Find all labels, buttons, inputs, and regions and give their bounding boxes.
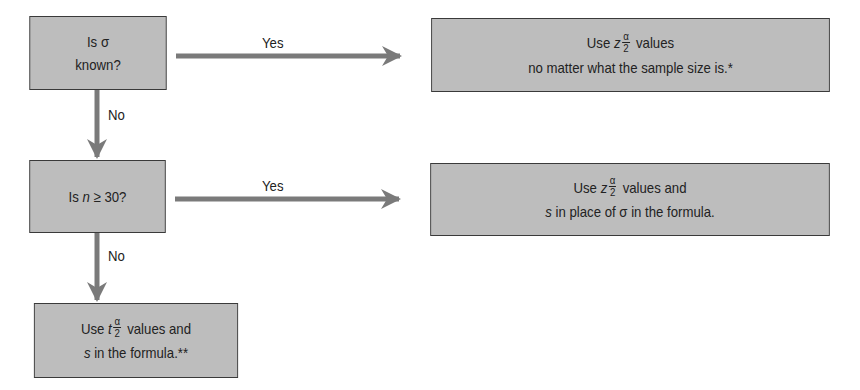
edge-label-yes-2: Yes (262, 177, 284, 194)
result-use-z-with-s: Use zα2 values and s in place of σ in th… (430, 163, 830, 236)
decision-n-at-least-30: Is n ≥ 30? (29, 160, 165, 233)
text: Is (87, 33, 101, 50)
text: no matter what the sample size is.* (528, 56, 733, 79)
edge-label-yes-1: Yes (262, 34, 284, 51)
text: known? (75, 53, 120, 76)
frac-den: 2 (114, 328, 119, 339)
edge-label-no-1: No (108, 106, 125, 123)
text: in the formula.** (91, 344, 189, 361)
text: values and (124, 320, 192, 337)
text: Use (81, 320, 108, 337)
text: Use (587, 34, 614, 51)
z-variable: z (614, 34, 621, 51)
result-use-z-any-size: Use zα2 values no matter what the sample… (431, 18, 830, 92)
n-variable: n (82, 188, 89, 205)
frac-num: α (622, 31, 629, 43)
alpha-over-2: α2 (609, 175, 616, 198)
alpha-over-2: α2 (622, 31, 629, 54)
sigma-symbol: σ (619, 203, 627, 220)
alpha-over-2: α2 (114, 316, 121, 339)
text: values (632, 34, 674, 51)
t-variable: t (108, 320, 112, 337)
sigma-symbol: σ (101, 33, 109, 50)
text: Is (69, 188, 83, 205)
frac-den: 2 (610, 187, 615, 198)
z-variable: z (601, 179, 608, 196)
decision-sigma-known: Is σ known? (29, 16, 166, 90)
text: in place of (552, 203, 620, 220)
text: Use (573, 179, 600, 196)
text: ≥ 30? (90, 188, 127, 205)
frac-den: 2 (623, 43, 628, 54)
result-use-t-with-s: Use tα2 values and s in the formula.** (34, 303, 238, 378)
text: in the formula. (627, 203, 714, 220)
edge-label-no-2: No (108, 247, 125, 264)
text: values and (619, 179, 687, 196)
